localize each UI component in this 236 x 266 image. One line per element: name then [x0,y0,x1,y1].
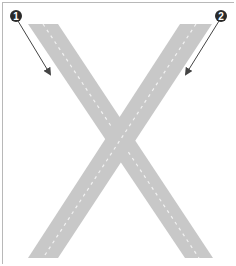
callout-2-label: 2 [218,11,224,22]
x-roads-diagram: 1 2 [0,0,236,266]
callout-1-label: 1 [13,11,19,22]
diagram-frame: 1 2 [0,0,236,266]
